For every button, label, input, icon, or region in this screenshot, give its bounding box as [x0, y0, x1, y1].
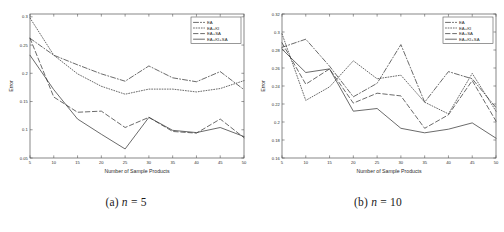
- x-tick-label: 50: [494, 160, 499, 165]
- x-tick-label: 5: [281, 160, 284, 165]
- figure-container: 51015202530354045500.050.10.150.20.250.3…: [0, 0, 504, 232]
- y-axis-title: Error: [260, 80, 266, 92]
- caption-a: (a) n = 5: [105, 196, 146, 208]
- subfigure-a: 51015202530354045500.050.10.150.20.250.3…: [0, 0, 252, 232]
- y-tick-label: 0.3: [22, 14, 28, 19]
- x-tick-label: 35: [170, 160, 175, 165]
- caption-b-equals: =: [380, 196, 387, 208]
- chart-a-plot-area: 51015202530354045500.050.10.150.20.250.3…: [0, 0, 252, 190]
- legend-label-ea: EA: [207, 20, 213, 25]
- series-line-ea-ki: [282, 34, 496, 114]
- chart-b-svg: 51015202530354045500.160.180.20.220.240.…: [252, 0, 504, 190]
- x-tick-label: 35: [422, 160, 427, 165]
- subfigure-b: 51015202530354045500.160.180.20.220.240.…: [252, 0, 504, 232]
- x-tick-label: 20: [99, 160, 104, 165]
- y-tick-label: 0.2: [274, 120, 280, 125]
- x-tick-label: 10: [303, 160, 308, 165]
- x-tick-label: 45: [218, 160, 223, 165]
- legend-label-ea-ki: EA+KI: [459, 26, 471, 31]
- caption-b: (b) n = 10: [354, 196, 402, 208]
- x-tick-label: 25: [123, 160, 128, 165]
- y-tick-label: 0.2: [22, 71, 28, 76]
- x-tick-label: 50: [242, 160, 247, 165]
- y-tick-label: 0.25: [20, 43, 29, 48]
- caption-a-equals: =: [131, 196, 138, 208]
- y-tick-label: 0.16: [272, 156, 281, 161]
- chart-b-plot-area: 51015202530354045500.160.180.20.220.240.…: [252, 0, 504, 190]
- x-axis-title: Number of Sample Products: [104, 168, 170, 174]
- y-tick-label: 0.05: [20, 156, 29, 161]
- series-line-ea-sa: [282, 43, 496, 129]
- series-line-ea-sa: [30, 38, 244, 137]
- x-tick-label: 30: [399, 160, 404, 165]
- caption-b-variable: n: [371, 196, 377, 208]
- y-tick-label: 0.18: [272, 138, 281, 143]
- x-tick-label: 30: [147, 160, 152, 165]
- caption-b-prefix: (b): [354, 196, 368, 208]
- x-tick-label: 5: [29, 160, 32, 165]
- caption-b-value: 10: [390, 196, 402, 208]
- y-tick-label: 0.3: [274, 30, 280, 35]
- legend-label-ea: EA: [459, 20, 465, 25]
- caption-a-variable: n: [122, 196, 128, 208]
- y-tick-label: 0.24: [272, 84, 281, 89]
- caption-a-value: 5: [141, 196, 147, 208]
- series-line-ea: [282, 39, 496, 107]
- y-tick-label: 0.32: [272, 12, 281, 17]
- legend-label-ea-sa: EA+SA: [207, 31, 221, 36]
- y-tick-label: 0.28: [272, 48, 281, 53]
- legend-label-ea-ki: EA+KI: [207, 26, 219, 31]
- x-tick-label: 40: [194, 160, 199, 165]
- y-axis-title: Error: [8, 80, 14, 92]
- x-tick-label: 10: [51, 160, 56, 165]
- x-tick-label: 15: [327, 160, 332, 165]
- chart-a-svg: 51015202530354045500.050.10.150.20.250.3…: [0, 0, 252, 190]
- x-tick-label: 20: [351, 160, 356, 165]
- y-tick-label: 0.15: [20, 99, 29, 104]
- y-tick-label: 0.26: [272, 66, 281, 71]
- x-tick-label: 25: [375, 160, 380, 165]
- legend-label-ea-ki-sa: EA+KI+SA: [459, 37, 480, 42]
- series-line-ea-ki-sa: [282, 49, 496, 138]
- caption-a-prefix: (a): [105, 196, 118, 208]
- x-tick-label: 40: [446, 160, 451, 165]
- x-axis-title: Number of Sample Products: [356, 168, 422, 174]
- legend-label-ea-ki-sa: EA+KI+SA: [207, 37, 228, 42]
- x-tick-label: 15: [75, 160, 80, 165]
- y-tick-label: 0.1: [22, 127, 28, 132]
- series-line-ea: [30, 38, 244, 89]
- x-tick-label: 45: [470, 160, 475, 165]
- legend-label-ea-sa: EA+SA: [459, 31, 473, 36]
- y-tick-label: 0.22: [272, 102, 281, 107]
